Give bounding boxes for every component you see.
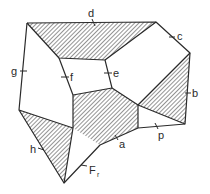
label-f: f — [70, 71, 74, 83]
shaded-top-trapezoid — [27, 22, 156, 60]
label-F-subscript-r: r — [97, 171, 100, 178]
label-d: d — [88, 7, 94, 19]
shaded-right-triangle — [138, 53, 190, 124]
label-p: p — [158, 129, 164, 141]
label-F: F — [89, 164, 96, 176]
label-b: b — [192, 87, 198, 99]
label-e: e — [113, 67, 119, 79]
label-h: h — [30, 143, 36, 155]
label-a: a — [119, 138, 126, 150]
label-g: g — [11, 65, 17, 77]
label-c: c — [177, 30, 183, 42]
shaded-center-hexagon — [73, 88, 138, 145]
edge-e — [105, 60, 112, 88]
shaded-left-triangle — [19, 110, 73, 183]
polyhedron-diagram: d c b p a F r h g f e — [0, 0, 210, 194]
diagram-canvas: d c b p a F r h g f e — [0, 0, 210, 194]
tick-Fr — [81, 165, 87, 166]
